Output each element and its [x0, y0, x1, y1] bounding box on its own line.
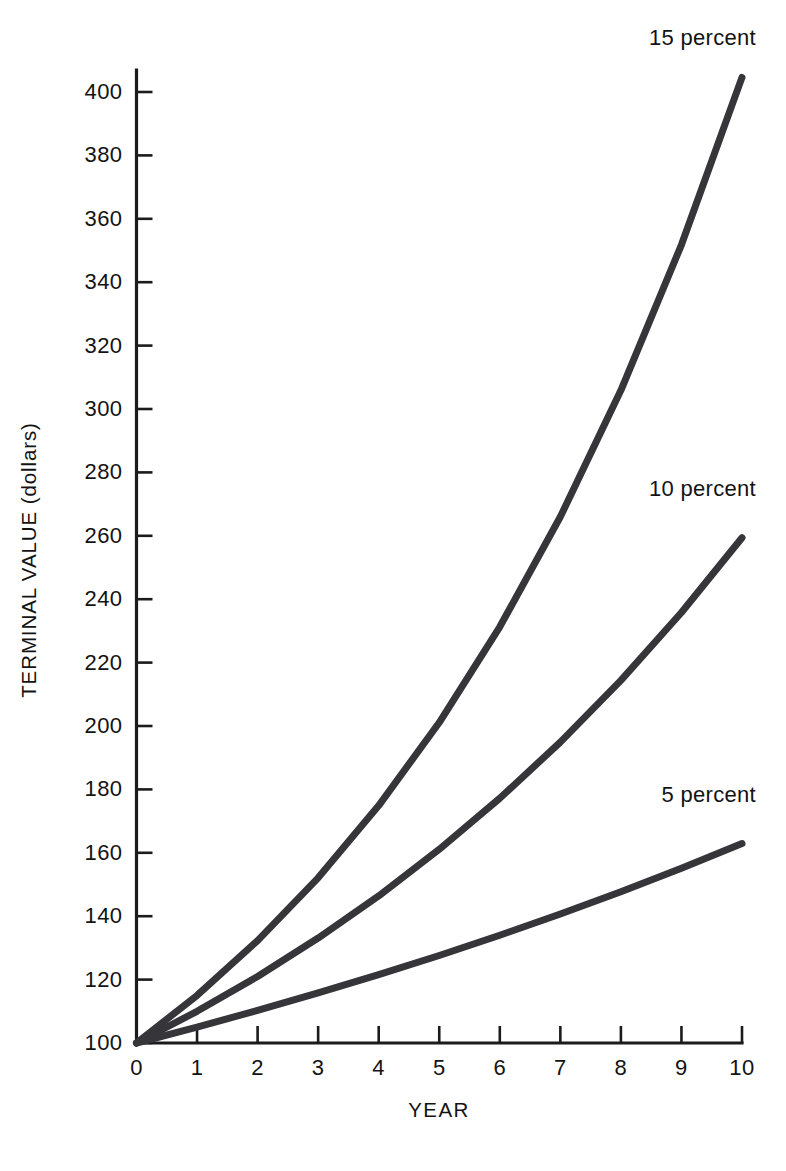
y-tick-label: 220	[59, 650, 123, 676]
series-line-15-percent	[137, 77, 743, 1043]
tick-group	[137, 92, 743, 1043]
x-tick-label: 5	[433, 1055, 446, 1081]
y-tick-label: 400	[59, 79, 123, 105]
series-label-15-percent: 15 percent	[649, 25, 756, 51]
chart-figure: 1001201401601802002202402602803003203403…	[0, 0, 786, 1171]
y-tick-label: 380	[59, 142, 123, 168]
y-tick-label: 360	[59, 206, 123, 232]
y-tick-label: 340	[59, 269, 123, 295]
series-label-10-percent: 10 percent	[649, 476, 756, 502]
x-tick-label: 7	[554, 1055, 567, 1081]
y-tick-label: 140	[59, 903, 123, 929]
y-tick-label: 200	[59, 713, 123, 739]
y-tick-label: 120	[59, 967, 123, 993]
x-tick-label: 9	[675, 1055, 688, 1081]
y-tick-label: 180	[59, 776, 123, 802]
y-tick-label: 160	[59, 840, 123, 866]
y-tick-label: 240	[59, 586, 123, 612]
x-tick-label: 10	[729, 1055, 754, 1081]
series-label-5-percent: 5 percent	[662, 782, 756, 808]
x-tick-label: 4	[372, 1055, 385, 1081]
x-tick-label: 3	[312, 1055, 325, 1081]
y-tick-label: 320	[59, 333, 123, 359]
y-tick-label: 300	[59, 396, 123, 422]
x-axis-title: YEAR	[408, 1098, 469, 1122]
axis-group	[137, 70, 743, 1043]
y-axis-title: TERMINAL VALUE (dollars)	[17, 422, 41, 698]
series-line-5-percent	[137, 844, 743, 1043]
y-tick-label: 260	[59, 523, 123, 549]
x-tick-label: 8	[615, 1055, 628, 1081]
x-tick-label: 2	[251, 1055, 264, 1081]
series-group	[137, 77, 743, 1043]
y-tick-label: 280	[59, 459, 123, 485]
x-tick-label: 1	[191, 1055, 204, 1081]
x-tick-label: 0	[130, 1055, 143, 1081]
x-tick-label: 6	[493, 1055, 506, 1081]
y-tick-label: 100	[59, 1030, 123, 1056]
